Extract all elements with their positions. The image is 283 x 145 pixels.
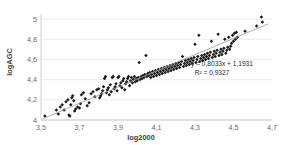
y-tick-label: 4,2 <box>27 95 37 104</box>
y-tick-label: 5 <box>33 15 37 24</box>
y-axis-title: logAGC <box>5 48 14 76</box>
r-squared-label: R² = 0,9327 <box>195 69 230 76</box>
y-tick-label: 4,8 <box>27 35 37 44</box>
x-tick-label: 4,3 <box>190 123 200 132</box>
x-axis-title: log2000 <box>127 133 155 142</box>
x-tick-label: 3,5 <box>36 123 46 132</box>
x-tick-label: 3,7 <box>75 123 85 132</box>
x-tick-label: 3,9 <box>113 123 123 132</box>
scatter-chart: 44,24,44,64,85 3,53,73,94,14,34,54,7 log… <box>0 0 283 145</box>
x-tick-label: 4,5 <box>229 123 239 132</box>
x-tick-label: 4,1 <box>152 123 162 132</box>
y-tick-label: 4,6 <box>27 55 37 64</box>
chart-canvas: 44,24,44,64,85 3,53,73,94,14,34,54,7 log… <box>0 0 283 145</box>
y-tick-label: 4,4 <box>27 75 37 84</box>
x-tick-label: 4,7 <box>267 123 277 132</box>
regression-equation-label: y = 0,8033x + 1,1931 <box>191 60 253 68</box>
